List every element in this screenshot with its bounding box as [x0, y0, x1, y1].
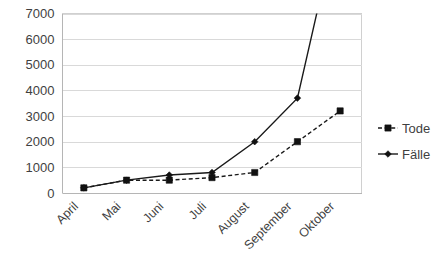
y-axis-tick-label: 2000	[26, 134, 55, 149]
legend-marker-square-icon	[385, 125, 391, 131]
y-axis-tick-label: 1000	[26, 160, 55, 175]
data-point-marker	[337, 108, 343, 114]
data-point-marker	[252, 169, 258, 175]
y-axis-tick-label: 5000	[26, 57, 55, 72]
chart-container: 01000200030004000500060007000 AprilMaiJu…	[0, 0, 445, 268]
legend-label: Tode	[402, 121, 430, 136]
y-axis-tick-label: 3000	[26, 109, 55, 124]
line-chart: 01000200030004000500060007000 AprilMaiJu…	[0, 0, 445, 268]
y-axis-tick-label: 6000	[26, 32, 55, 47]
y-axis-tick-label: 4000	[26, 83, 55, 98]
y-axis-tick-label: 0	[47, 186, 54, 201]
y-axis-tick-label: 7000	[26, 6, 55, 21]
data-point-marker	[294, 139, 300, 145]
legend-label: Fälle	[402, 147, 430, 162]
